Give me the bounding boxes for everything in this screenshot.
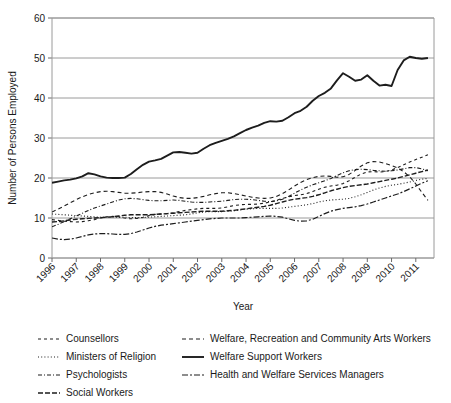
y-tick-label: 40 bbox=[34, 93, 46, 104]
y-tick-label: 20 bbox=[34, 173, 46, 184]
legend-label[interactable]: Psychologists bbox=[66, 369, 127, 380]
x-tick-label: 2011 bbox=[398, 260, 421, 283]
x-tick-label: 2009 bbox=[349, 260, 373, 284]
legend-label[interactable]: Ministers of Religion bbox=[66, 351, 156, 362]
x-axis-title: Year bbox=[233, 301, 254, 312]
x-tick-label: 1996 bbox=[34, 260, 58, 284]
y-axis-title: Number of Persons Employed bbox=[7, 71, 18, 204]
employment-line-chart: 0102030405060199619971998199920002001200… bbox=[0, 0, 451, 403]
legend-label[interactable]: Welfare, Recreation and Community Arts W… bbox=[210, 333, 431, 344]
x-tick-label: 1998 bbox=[82, 260, 106, 284]
x-tick-label: 2001 bbox=[155, 260, 179, 284]
y-tick-label: 30 bbox=[34, 133, 46, 144]
y-tick-label: 50 bbox=[34, 53, 46, 64]
x-tick-label: 2005 bbox=[252, 260, 276, 284]
series-line-1 bbox=[52, 178, 428, 217]
x-tick-label: 2004 bbox=[228, 260, 252, 284]
legend-label[interactable]: Health and Welfare Services Managers bbox=[210, 369, 384, 380]
x-tick-label: 1997 bbox=[58, 260, 82, 284]
x-tick-label: 2007 bbox=[301, 260, 325, 284]
x-tick-label: 2008 bbox=[325, 260, 349, 284]
legend-label[interactable]: Welfare Support Workers bbox=[210, 351, 322, 362]
series-line-4 bbox=[52, 162, 428, 212]
legend-label[interactable]: Counsellors bbox=[66, 333, 119, 344]
x-tick-label: 2010 bbox=[373, 260, 397, 284]
y-tick-label: 60 bbox=[34, 13, 46, 24]
y-tick-label: 0 bbox=[39, 253, 45, 264]
x-tick-label: 2003 bbox=[204, 260, 228, 284]
chart-figure: 0102030405060199619971998199920002001200… bbox=[0, 0, 451, 403]
x-tick-label: 2006 bbox=[276, 260, 300, 284]
x-tick-label: 2000 bbox=[131, 260, 155, 284]
series-line-6 bbox=[52, 181, 428, 240]
series-group bbox=[52, 57, 428, 240]
y-tick-label: 10 bbox=[34, 213, 46, 224]
x-tick-label: 2002 bbox=[179, 260, 203, 284]
legend-label[interactable]: Social Workers bbox=[66, 387, 133, 398]
series-line-0 bbox=[52, 155, 428, 222]
x-tick-label: 1999 bbox=[107, 260, 131, 284]
series-line-5 bbox=[52, 57, 428, 183]
